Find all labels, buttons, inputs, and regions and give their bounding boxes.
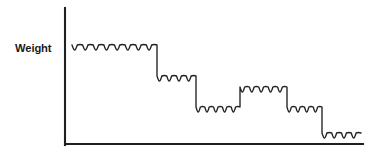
weight-plateau-chart: Weight	[0, 0, 378, 159]
y-axis-label: Weight	[15, 42, 52, 54]
chart-background	[0, 0, 378, 159]
